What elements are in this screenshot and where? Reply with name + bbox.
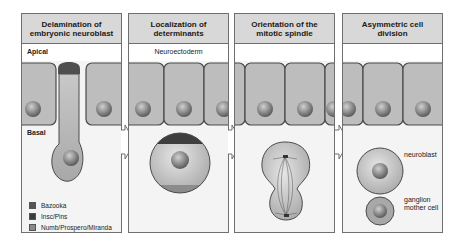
neuroblast-label: neuroblast (404, 151, 437, 159)
legend-label: Bazooka (41, 202, 66, 209)
basal-label: Basal (27, 129, 46, 136)
swatch-insc-pins (29, 213, 36, 220)
legend-item-bazooka: Bazooka (29, 200, 112, 211)
localization-illustration (129, 14, 229, 233)
ganglion-mother-cell-label: ganglion mother cell (404, 196, 440, 212)
swatch-numb (29, 224, 36, 231)
panel-orientation: Orientation of the mitotic spindle (234, 13, 335, 233)
panel-delamination: Delamination of embryonic neuroblast Api… (21, 13, 122, 233)
panel-asymmetric-division: Asymmetric cell division neuroblast gang… (342, 13, 443, 233)
legend-item-numb: Numb/Prospero/Miranda (29, 222, 112, 233)
spindle-illustration (235, 14, 335, 233)
legend: Bazooka Insc/Pins Numb/Prospero/Miranda (29, 200, 112, 233)
legend-item-insc-pins: Insc/Pins (29, 211, 112, 222)
legend-label: Numb/Prospero/Miranda (41, 224, 112, 231)
swatch-bazooka (29, 202, 36, 209)
panel-localization: Localization of determinants Neuroectode… (128, 13, 229, 233)
legend-label: Insc/Pins (41, 213, 67, 220)
